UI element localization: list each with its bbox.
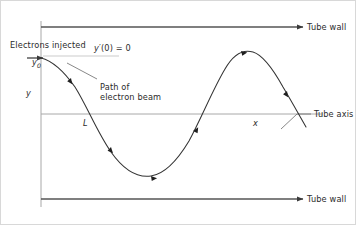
slope-condition-rest: (0) = 0 (101, 43, 131, 53)
y0-label: y0 (32, 57, 41, 69)
tube-wall-top-label: Tube wall (307, 22, 346, 32)
tube-wall-bottom-label: Tube wall (307, 194, 346, 204)
initial-slope-condition-label: y′(0) = 0 (94, 43, 131, 53)
tube-axis-leader-line (281, 114, 297, 129)
x-axis-label: x (253, 118, 258, 128)
diagram-canvas (1, 1, 356, 225)
length-L-label: L (83, 118, 88, 128)
electron-beam-diagram: Electrons injected y0 y′(0) = 0 Path of … (0, 0, 356, 225)
electrons-injected-label: Electrons injected (10, 40, 86, 50)
tube-axis-label: Tube axis (314, 109, 354, 119)
path-of-beam-label: Path of electron beam (100, 82, 164, 102)
path-label-leader-line (67, 63, 97, 79)
beam-direction-markers (67, 50, 290, 181)
y0-subscript: 0 (37, 62, 41, 69)
y-axis-label: y (26, 88, 31, 98)
